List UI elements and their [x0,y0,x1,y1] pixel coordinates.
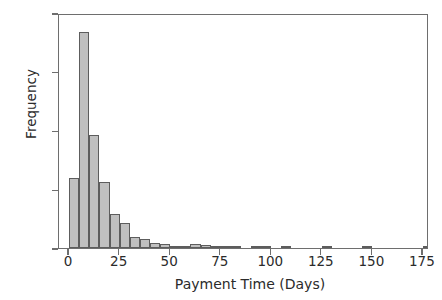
histogram-bar [120,223,130,248]
histogram-bar [423,246,427,248]
plot-area [59,15,427,248]
y-axis-tick-mark [52,72,58,73]
histogram-chart: Frequency Payment Time (Days) 0100200300… [0,0,442,300]
histogram-bar [69,178,79,249]
histogram-bar [261,246,271,248]
histogram-bar [140,239,150,248]
histogram-bar [89,135,99,248]
histogram-bar [79,32,89,248]
histogram-bar [231,246,241,248]
histogram-bar [110,214,120,248]
histogram-bar [180,246,190,248]
histogram-bar [160,244,170,248]
y-axis-tick-mark [52,248,58,249]
y-axis-tick-mark [52,190,58,191]
histogram-bar [322,246,332,248]
histogram-bar [281,246,291,248]
histogram-bar [99,182,109,248]
histogram-bar [170,246,180,248]
histogram-bar [190,244,200,248]
plot-frame [58,14,428,249]
histogram-bar [251,246,261,248]
y-axis-tick-mark [52,131,58,132]
histogram-bar [211,246,221,248]
histogram-bar [150,243,160,248]
histogram-bar [130,237,140,248]
y-axis-label: Frequency [23,49,39,159]
x-axis-title-text: Payment Time (Days) [65,276,435,292]
x-axis-tick-label: 175 [392,255,442,269]
y-axis-tick-mark [52,13,58,14]
histogram-bar [221,246,231,248]
histogram-bar [201,245,211,248]
x-axis-title: Payment Time (Days) [0,276,442,292]
histogram-bar [362,246,372,248]
